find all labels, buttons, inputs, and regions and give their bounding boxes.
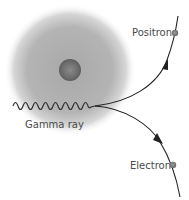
gamma-ray-label: Gamma ray <box>25 119 84 130</box>
pair-production-diagram: Gamma ray Positron Electron <box>0 0 189 200</box>
positron-label: Positron <box>132 27 172 38</box>
positron-particle <box>172 30 178 36</box>
nucleus <box>59 59 81 81</box>
positron-arrow-icon <box>162 59 168 70</box>
electron-label: Electron <box>130 160 171 171</box>
